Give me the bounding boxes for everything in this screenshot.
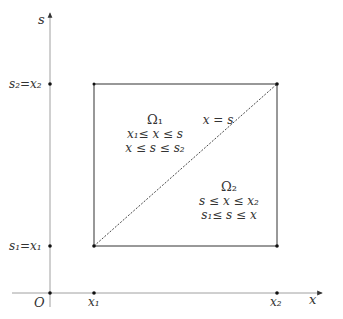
corner-tr-dot <box>275 82 279 86</box>
region-omega2-cond1: s ≤ x ≤ x₂ <box>199 194 259 208</box>
s1-dot <box>48 244 52 248</box>
x1-tick-label: x₁ <box>88 295 100 309</box>
x-axis-label: x <box>309 292 317 307</box>
s2-dot <box>48 82 52 86</box>
corner-tl-dot <box>93 83 96 86</box>
origin-dot <box>48 291 52 295</box>
corner-br-dot <box>275 244 279 248</box>
origin-label: O <box>34 295 45 310</box>
s1-tick-label: s₁=x₁ <box>9 239 42 253</box>
s2-tick-label: s₂=x₂ <box>9 77 42 91</box>
corner-bl-dot <box>92 244 96 248</box>
region-omega1-cond2: x ≤ s ≤ s₂ <box>125 141 184 155</box>
region-omega1-name: Ω₁ <box>147 112 163 127</box>
region-omega1-cond1: x₁≤ x ≤ s <box>127 127 183 141</box>
region-omega2-cond2: s₁≤ s ≤ x <box>201 208 257 222</box>
x2-tick-label: x₂ <box>270 295 282 309</box>
y-axis-label: s <box>38 12 45 27</box>
region-omega2-name: Ω₂ <box>221 179 237 194</box>
diagonal-label: x = s <box>203 113 234 127</box>
diagram-canvas: s x O x₁ x₂ s₁=x₁ s₂=x₂ Ω₁ x₁≤ x ≤ s x ≤… <box>0 0 343 319</box>
